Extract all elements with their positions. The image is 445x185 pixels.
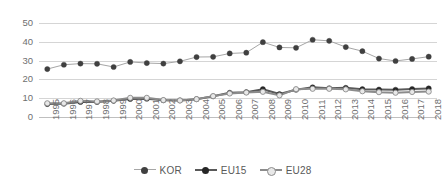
legend-label: KOR bbox=[160, 165, 182, 176]
y-tick-label: 20 bbox=[0, 74, 33, 84]
data-point-eu28 bbox=[61, 101, 66, 106]
data-point-kor bbox=[244, 50, 249, 55]
data-point-kor bbox=[128, 59, 133, 64]
y-tick-label: 40 bbox=[0, 37, 33, 47]
data-point-kor bbox=[177, 59, 182, 64]
data-point-kor bbox=[310, 37, 315, 42]
x-tick-label: 2003 bbox=[174, 119, 186, 155]
data-point-eu28 bbox=[260, 89, 265, 94]
data-point-eu28 bbox=[177, 98, 182, 103]
data-point-kor bbox=[343, 44, 348, 49]
x-tick-label: 2018 bbox=[423, 119, 435, 155]
data-point-kor bbox=[61, 62, 66, 67]
legend-marker-icon bbox=[195, 165, 217, 175]
data-point-kor bbox=[293, 45, 298, 50]
data-point-kor bbox=[410, 56, 415, 61]
y-axis: 01020304050 bbox=[0, 16, 33, 126]
data-point-eu28 bbox=[360, 89, 365, 94]
data-point-eu28 bbox=[293, 87, 298, 92]
data-point-kor bbox=[111, 64, 116, 69]
y-tick-label: 50 bbox=[0, 18, 33, 28]
data-point-kor bbox=[78, 61, 83, 66]
x-tick-label: 2014 bbox=[356, 119, 368, 155]
chart-legend: KOREU15EU28 bbox=[0, 161, 445, 179]
y-tick-label: 0 bbox=[0, 112, 33, 122]
x-tick-label: 2001 bbox=[141, 119, 153, 155]
data-point-eu28 bbox=[244, 90, 249, 95]
x-tick-label: 1999 bbox=[108, 119, 120, 155]
legend-marker-icon bbox=[260, 165, 282, 175]
data-point-kor bbox=[227, 51, 232, 56]
x-tick-label: 1997 bbox=[74, 119, 86, 155]
data-point-kor bbox=[376, 56, 381, 61]
x-tick-label: 2000 bbox=[124, 119, 136, 155]
data-point-kor bbox=[260, 40, 265, 45]
data-point-eu28 bbox=[410, 89, 415, 94]
data-point-eu28 bbox=[227, 91, 232, 96]
x-tick-label: 2006 bbox=[224, 119, 236, 155]
line-chart: 01020304050 1995199619971998199920002001… bbox=[0, 0, 445, 185]
x-tick-label: 2007 bbox=[240, 119, 252, 155]
legend-label: EU28 bbox=[286, 165, 312, 176]
legend-marker-icon bbox=[134, 165, 156, 175]
x-tick-label: 2012 bbox=[323, 119, 335, 155]
data-point-kor bbox=[211, 54, 216, 59]
legend-dot-icon bbox=[141, 167, 148, 174]
x-axis: 1995199619971998199920002001200220032004… bbox=[39, 119, 437, 159]
legend-item-eu15[interactable]: EU15 bbox=[195, 165, 247, 176]
data-point-eu28 bbox=[393, 90, 398, 95]
data-point-eu28 bbox=[343, 87, 348, 92]
x-tick-label: 2008 bbox=[257, 119, 269, 155]
x-tick-label: 2016 bbox=[390, 119, 402, 155]
data-point-kor bbox=[45, 66, 50, 71]
data-point-kor bbox=[161, 61, 166, 66]
x-tick-label: 1998 bbox=[91, 119, 103, 155]
y-tick-label: 30 bbox=[0, 56, 33, 66]
series-line-kor bbox=[47, 40, 428, 69]
data-point-eu28 bbox=[426, 89, 431, 94]
data-point-eu28 bbox=[277, 93, 282, 98]
data-point-kor bbox=[277, 45, 282, 50]
legend-item-eu28[interactable]: EU28 bbox=[260, 165, 312, 176]
data-point-kor bbox=[327, 38, 332, 43]
x-tick-label: 2009 bbox=[273, 119, 285, 155]
legend-label: EU15 bbox=[221, 165, 247, 176]
legend-dot-icon bbox=[267, 167, 276, 176]
data-point-eu28 bbox=[310, 86, 315, 91]
x-tick-label: 2013 bbox=[340, 119, 352, 155]
data-point-kor bbox=[194, 54, 199, 59]
x-tick-label: 2011 bbox=[307, 119, 319, 155]
x-tick-label: 2010 bbox=[290, 119, 302, 155]
data-point-kor bbox=[144, 60, 149, 65]
legend-dot-icon bbox=[202, 167, 209, 174]
x-tick-label: 2005 bbox=[207, 119, 219, 155]
x-tick-label: 1995 bbox=[41, 119, 53, 155]
data-point-eu28 bbox=[376, 90, 381, 95]
data-point-eu28 bbox=[327, 86, 332, 91]
x-tick-label: 2004 bbox=[191, 119, 203, 155]
legend-item-kor[interactable]: KOR bbox=[134, 165, 182, 176]
x-tick-label: 1996 bbox=[58, 119, 70, 155]
data-point-kor bbox=[360, 49, 365, 54]
data-point-kor bbox=[393, 58, 398, 63]
data-point-kor bbox=[94, 61, 99, 66]
data-point-kor bbox=[426, 54, 431, 59]
x-tick-label: 2002 bbox=[157, 119, 169, 155]
x-tick-label: 2015 bbox=[373, 119, 385, 155]
y-tick-label: 10 bbox=[0, 93, 33, 103]
x-tick-label: 2017 bbox=[406, 119, 418, 155]
data-point-eu28 bbox=[94, 99, 99, 104]
